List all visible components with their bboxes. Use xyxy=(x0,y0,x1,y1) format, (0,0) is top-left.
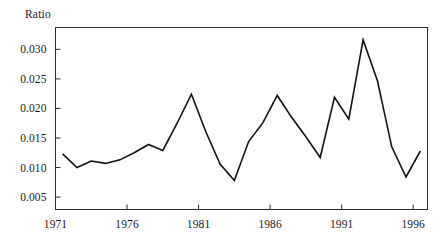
y-tick-label: 0.015 xyxy=(0,132,47,144)
y-tick-label: 0.005 xyxy=(0,191,47,203)
chart-figure: Ratio 0.0050.0100.0150.0200.0250.030 197… xyxy=(0,0,448,252)
y-tick-label: 0.030 xyxy=(0,43,47,55)
axes-frame xyxy=(56,28,428,210)
y-tick-label: 0.020 xyxy=(0,102,47,114)
chart-plot-area xyxy=(0,0,448,252)
x-tick-label: 1996 xyxy=(401,218,424,230)
x-tick-label: 1981 xyxy=(187,218,210,230)
x-tick-label: 1991 xyxy=(330,218,353,230)
x-tick-label: 1986 xyxy=(258,218,281,230)
y-tick-label: 0.025 xyxy=(0,73,47,85)
y-tick-label: 0.010 xyxy=(0,162,47,174)
x-tick-label: 1971 xyxy=(44,218,67,230)
x-tick-label: 1976 xyxy=(115,218,138,230)
